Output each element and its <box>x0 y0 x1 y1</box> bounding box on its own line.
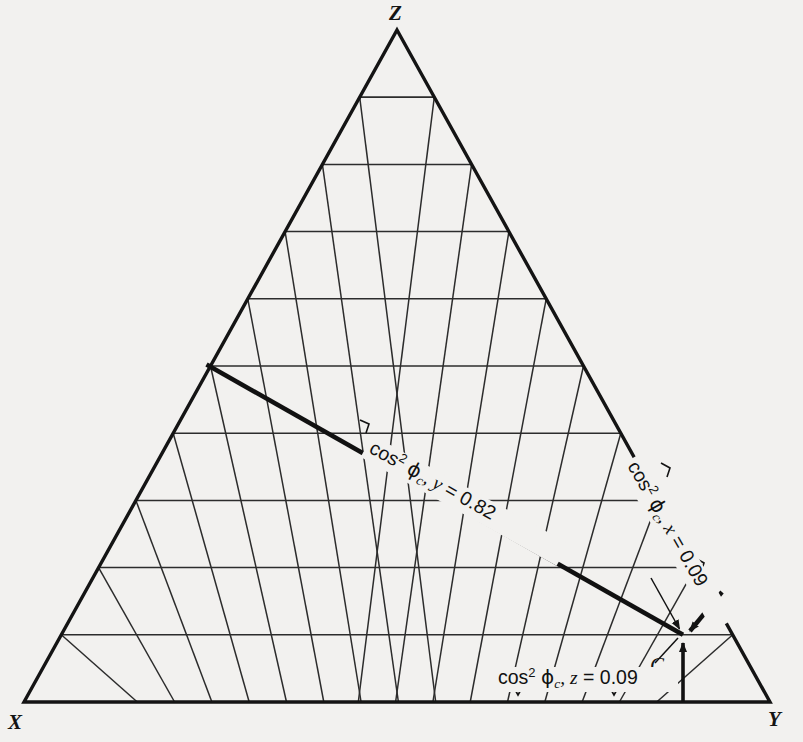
gridline-left-parallel <box>360 97 436 702</box>
annotation-x: cos2 ϕc, x = 0.09 <box>618 453 736 631</box>
annotation-z-axis: , z <box>560 667 578 688</box>
gridline-left-parallel <box>285 232 361 702</box>
gridline-left-parallel <box>211 366 287 702</box>
gridline-right-parallel <box>358 97 434 702</box>
chevron-tick <box>661 463 670 477</box>
annotation-z-cos: cos <box>498 666 529 688</box>
annotation-z: cos2 ϕc, z = 0.09 <box>493 665 678 692</box>
construction-lines <box>207 365 723 703</box>
vertex-label-z: Z <box>388 1 402 25</box>
annotation-z-equals: = <box>578 666 600 688</box>
gridline-right-parallel <box>433 232 509 702</box>
annotation-z-phi: ϕ <box>541 665 554 689</box>
annotation-z-text: cos2 ϕc, z = 0.09 <box>498 665 638 691</box>
ternary-diagram: X Y Z C cos2 ϕc, y = 0.82 cos2 ϕc, x = 0… <box>0 0 803 742</box>
vertex-label-x: X <box>7 710 23 734</box>
annotation-y-text: cos2 ϕc, y = 0.82 <box>365 435 501 526</box>
gridline-left-parallel <box>61 635 137 702</box>
y-annotation-ticks <box>360 420 369 433</box>
annotation-y: cos2 ϕc, y = 0.82 <box>361 433 570 565</box>
grid-lines <box>61 97 732 702</box>
annotation-z-value: 0.09 <box>600 666 638 688</box>
vertex-label-y: Y <box>768 707 783 731</box>
chevron-tick <box>360 420 369 433</box>
annotation-z-exponent: 2 <box>528 665 535 680</box>
figure-canvas: X Y Z C cos2 ϕc, y = 0.82 cos2 ϕc, x = 0… <box>0 0 803 742</box>
